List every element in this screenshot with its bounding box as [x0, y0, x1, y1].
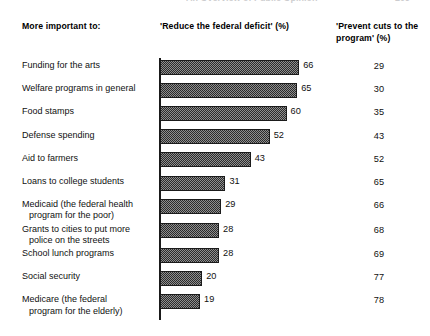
bar-value-label: 52 — [274, 130, 284, 140]
row-label: Funding for the arts — [22, 60, 158, 71]
chart-row: Social security2077 — [0, 269, 430, 292]
row-label: Aid to farmers — [22, 153, 158, 164]
bar — [160, 60, 299, 75]
prevent-cuts-value: 77 — [336, 272, 384, 282]
bar-value-label: 19 — [204, 294, 214, 304]
prevent-cuts-value: 66 — [336, 200, 384, 210]
chart-row: Welfare programs in general6530 — [0, 81, 430, 104]
bar-container — [160, 129, 270, 144]
bar-container — [160, 106, 287, 121]
running-head-page-number: 209 — [395, 0, 410, 3]
prevent-cuts-value: 29 — [336, 61, 384, 71]
bar — [160, 176, 225, 191]
bar-value-label: 66 — [303, 60, 313, 70]
prevent-cuts-value: 65 — [336, 177, 384, 187]
bar-value-label: 60 — [291, 106, 301, 116]
bar — [160, 106, 287, 121]
prevent-cuts-value: 52 — [336, 154, 384, 164]
running-head-title: An Overview of Public Opinion — [186, 0, 318, 3]
bar — [160, 129, 270, 144]
header-prevent-cuts: 'Prevent cuts to the program' (%) — [336, 21, 430, 44]
chart-row: Medicare (the federalprogram for the eld… — [0, 292, 430, 315]
row-label: School lunch programs — [22, 248, 158, 259]
bar-value-label: 65 — [301, 83, 311, 93]
chart-row: Funding for the arts6629 — [0, 58, 430, 81]
bar — [160, 294, 200, 309]
chart-row: Loans to college students3165 — [0, 174, 430, 197]
row-label: Medicaid (the federal healthprogram for … — [22, 199, 158, 222]
chart-row: School lunch programs2869 — [0, 246, 430, 269]
row-label: Welfare programs in general — [22, 83, 158, 94]
row-label: Grants to cities to put morepolice on th… — [22, 224, 158, 247]
chart-row: Grants to cities to put morepolice on th… — [0, 222, 430, 245]
bar-value-label: 28 — [223, 248, 233, 258]
prevent-cuts-value: 35 — [336, 107, 384, 117]
bar-value-label: 31 — [229, 176, 239, 186]
column-headers: More important to: 'Reduce the federal d… — [0, 20, 430, 54]
bar-container — [160, 199, 221, 214]
bar — [160, 223, 219, 238]
prevent-cuts-value: 30 — [336, 84, 384, 94]
bar-container — [160, 152, 251, 167]
prevent-cuts-value: 78 — [336, 295, 384, 305]
row-label: Food stamps — [22, 106, 158, 117]
chart-row: Medicaid (the federal healthprogram for … — [0, 197, 430, 220]
bar — [160, 271, 202, 286]
chart-row: Defense spending5243 — [0, 128, 430, 151]
bar-value-label: 28 — [223, 224, 233, 234]
bar-chart: Funding for the arts6629Welfare programs… — [0, 58, 430, 336]
row-label: Social security — [22, 271, 158, 282]
bar — [160, 199, 221, 214]
bar — [160, 248, 219, 263]
bar-container — [160, 271, 202, 286]
bar — [160, 83, 297, 98]
bar-value-label: 29 — [225, 199, 235, 209]
bar-value-label: 43 — [255, 153, 265, 163]
running-head: An Overview of Public Opinion 209 — [0, 0, 430, 3]
bar-container — [160, 294, 200, 309]
bar-container — [160, 223, 219, 238]
bar-container — [160, 83, 297, 98]
bar-container — [160, 176, 225, 191]
chart-row: Food stamps6035 — [0, 104, 430, 127]
row-label: Defense spending — [22, 130, 158, 141]
bar — [160, 152, 251, 167]
prevent-cuts-value: 68 — [336, 225, 384, 235]
chart-row: Aid to farmers4352 — [0, 151, 430, 174]
row-label: Medicare (the federalprogram for the eld… — [22, 294, 158, 317]
bar-container — [160, 248, 219, 263]
row-label: Loans to college students — [22, 176, 158, 187]
header-more-important-to: More important to: — [22, 21, 101, 33]
prevent-cuts-value: 43 — [336, 131, 384, 141]
header-reduce-deficit: 'Reduce the federal deficit' (%) — [160, 21, 325, 33]
bar-value-label: 20 — [206, 271, 216, 281]
prevent-cuts-value: 69 — [336, 249, 384, 259]
bar-container — [160, 60, 299, 75]
